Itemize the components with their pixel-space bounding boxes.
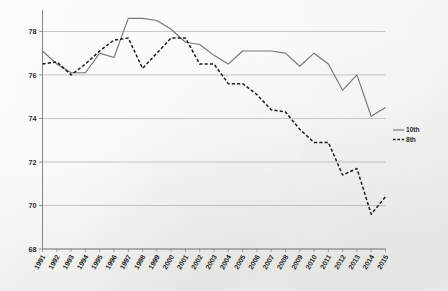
x-axis-label: 2003 xyxy=(204,253,218,270)
legend-label-8th: 8th xyxy=(406,136,416,143)
x-axis-label: 1992 xyxy=(47,253,61,270)
y-axis-label: 78 xyxy=(29,27,37,36)
x-axis-label: 2009 xyxy=(290,253,304,270)
line-chart: 687072747678 199119921993199419951996199… xyxy=(0,0,448,291)
x-axis-label: 2015 xyxy=(376,253,390,270)
x-axis-label: 2005 xyxy=(233,253,247,270)
x-axis-label: 1996 xyxy=(104,253,118,270)
x-axis-label: 2000 xyxy=(161,253,175,270)
chart-legend: 10th8th xyxy=(393,126,420,143)
x-axis-label: 1995 xyxy=(90,253,104,270)
x-axis-label: 2008 xyxy=(276,253,290,270)
x-axis-label: 2012 xyxy=(333,253,347,270)
x-axis-label: 2004 xyxy=(219,253,233,270)
x-axis-label: 1993 xyxy=(61,253,75,270)
x-axis-label: 1998 xyxy=(133,253,147,270)
y-axis-label: 72 xyxy=(29,158,37,167)
y-axis-label: 70 xyxy=(29,201,37,210)
x-axis-label: 2007 xyxy=(261,253,275,270)
x-axis-label: 2011 xyxy=(319,253,333,270)
series-line-8th xyxy=(43,38,386,214)
series-layer xyxy=(43,18,386,214)
x-axis-label: 2010 xyxy=(304,253,318,270)
series-line-10th xyxy=(43,18,386,116)
x-axis-label: 2013 xyxy=(347,253,361,270)
x-axis-label: 2001 xyxy=(176,253,190,270)
y-axis-label: 74 xyxy=(29,114,37,123)
x-axis-label: 2014 xyxy=(361,253,375,270)
x-axis-label: 1997 xyxy=(118,253,132,270)
y-axis-ticks: 687072747678 xyxy=(29,27,43,254)
y-axis-label: 76 xyxy=(29,71,37,80)
legend-label-10th: 10th xyxy=(406,126,420,133)
gridlines-group xyxy=(43,31,386,249)
chart-canvas: 687072747678 199119921993199419951996199… xyxy=(0,0,448,291)
x-axis-ticks: 1991199219931994199519961997199819992000… xyxy=(33,249,390,270)
x-axis-label: 1999 xyxy=(147,253,161,270)
x-axis-label: 1991 xyxy=(33,253,47,270)
axes-group xyxy=(43,10,386,249)
x-axis-label: 2002 xyxy=(190,253,204,270)
y-axis-label: 68 xyxy=(29,245,37,254)
x-axis-label: 1994 xyxy=(76,253,90,270)
x-axis-label: 2006 xyxy=(247,253,261,270)
